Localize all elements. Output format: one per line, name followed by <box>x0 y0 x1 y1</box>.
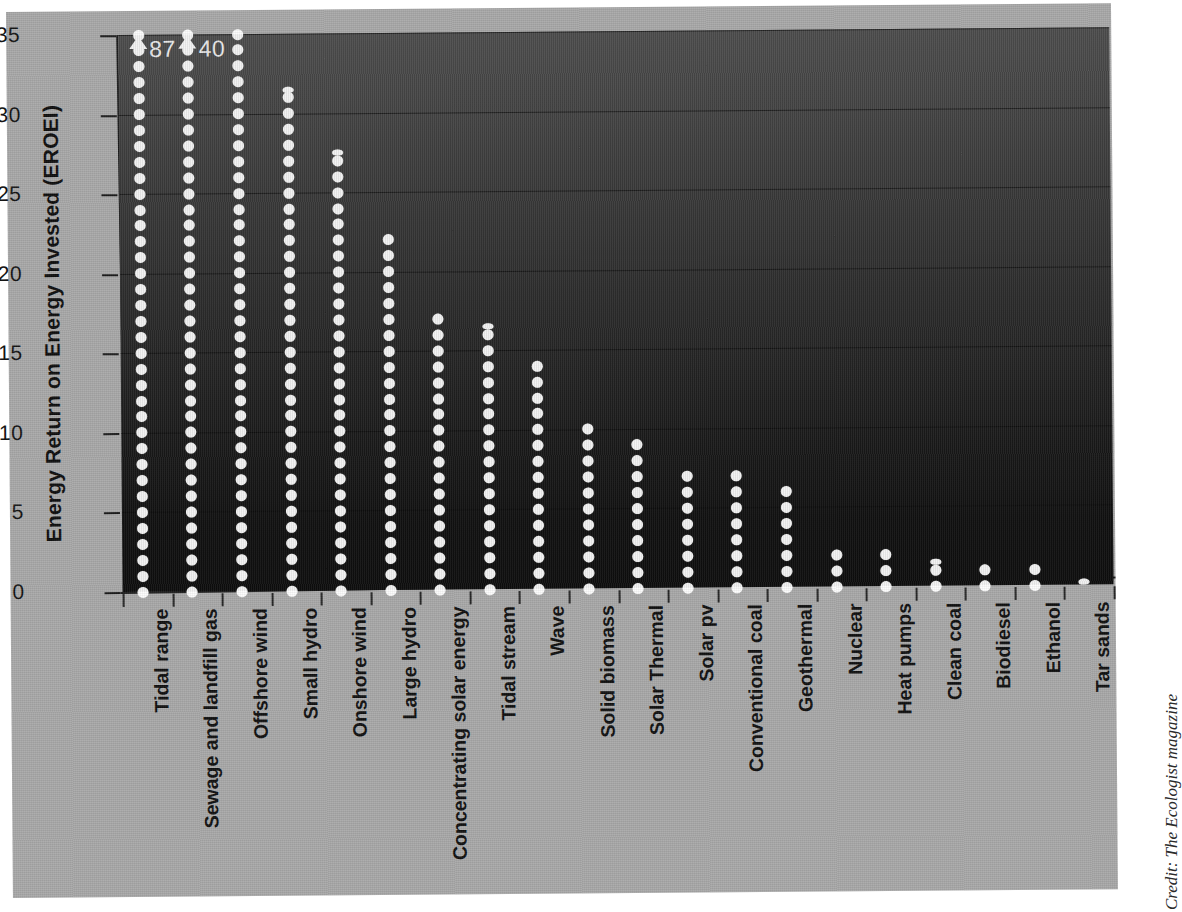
overflow-arrow-icon <box>129 36 147 49</box>
y-tick-0 <box>105 592 121 594</box>
data-dot <box>135 252 146 263</box>
data-dot <box>632 487 643 498</box>
data-dot <box>134 125 145 136</box>
data-dot <box>433 329 444 340</box>
data-dot <box>583 503 594 514</box>
data-dot <box>284 362 295 373</box>
data-dot <box>135 284 146 295</box>
y-tick-25 <box>101 194 117 196</box>
x-tick-12 <box>717 589 719 602</box>
data-dot <box>187 554 198 565</box>
y-tick-label-20: 20 <box>0 262 22 286</box>
data-dot <box>235 347 246 358</box>
data-dot <box>284 299 295 310</box>
data-dot <box>633 567 644 578</box>
data-dot <box>183 125 194 136</box>
data-dot <box>133 61 144 72</box>
data-dot <box>136 411 147 422</box>
data-dot <box>335 569 346 580</box>
data-dot <box>435 584 446 595</box>
x-tick-18 <box>1014 587 1016 600</box>
plot-area: 8740 <box>118 27 1113 592</box>
data-dot <box>1029 579 1040 590</box>
data-dot <box>284 267 295 278</box>
data-dot <box>333 219 344 230</box>
data-dot <box>236 538 247 549</box>
data-dot <box>235 458 246 469</box>
data-dot <box>184 204 195 215</box>
data-dot <box>137 586 148 597</box>
data-dot <box>881 581 892 592</box>
x-axis-label: Solid biomass <box>595 605 619 737</box>
data-dot <box>433 314 444 325</box>
data-dot <box>234 283 245 294</box>
data-dot <box>434 520 445 531</box>
data-dot <box>187 570 198 581</box>
data-dot <box>382 250 393 261</box>
data-dot <box>880 565 891 576</box>
data-dot <box>731 518 742 529</box>
data-dot <box>135 220 146 231</box>
data-dot <box>234 220 245 231</box>
data-dot <box>135 300 146 311</box>
data-dot <box>384 393 395 404</box>
data-dot <box>236 506 247 517</box>
gridline-5 <box>122 505 1113 514</box>
data-dot <box>334 378 345 389</box>
data-dot <box>582 440 593 451</box>
data-dot <box>233 92 244 103</box>
gridlines <box>118 27 1109 35</box>
data-dot <box>283 171 294 182</box>
data-dot <box>383 266 394 277</box>
data-dot <box>532 408 543 419</box>
data-dot <box>534 583 545 594</box>
data-dot <box>682 566 693 577</box>
data-dot <box>335 489 346 500</box>
data-dot <box>183 93 194 104</box>
data-dot <box>134 204 145 215</box>
data-dot <box>285 410 296 421</box>
data-dot <box>335 505 346 516</box>
data-dot <box>135 268 146 279</box>
data-dot <box>235 395 246 406</box>
data-dot <box>632 439 643 450</box>
data-dot <box>283 187 294 198</box>
data-dot <box>582 424 593 435</box>
data-dot <box>233 188 244 199</box>
data-dot <box>283 140 294 151</box>
data-dot <box>236 586 247 597</box>
data-dot <box>333 267 344 278</box>
data-dot <box>184 188 195 199</box>
data-dot <box>233 204 244 215</box>
data-dot <box>133 77 144 88</box>
data-dot <box>284 315 295 326</box>
data-dot <box>434 552 445 563</box>
data-dot <box>233 140 244 151</box>
data-dot <box>286 537 297 548</box>
data-dot <box>235 363 246 374</box>
data-dot <box>682 518 693 529</box>
gridline-30 <box>119 107 1110 116</box>
overflow-value-label: 87 <box>149 36 176 63</box>
data-dot <box>233 108 244 119</box>
data-dot <box>233 172 244 183</box>
data-dot <box>831 581 842 592</box>
x-axis-label: Solar pv <box>695 604 719 681</box>
data-dot <box>632 455 643 466</box>
data-dot <box>135 316 146 327</box>
data-dot <box>632 471 643 482</box>
data-dot <box>282 108 293 119</box>
data-dot <box>484 568 495 579</box>
figure-card: Energy Return on Energy Invested (EROEI)… <box>6 3 1118 898</box>
x-axis-label: Large hydro <box>397 607 421 720</box>
gridline-15 <box>121 346 1112 355</box>
data-dot <box>332 187 343 198</box>
data-dot <box>134 109 145 120</box>
data-dot <box>285 490 296 501</box>
overflow-value-label: 40 <box>199 35 226 62</box>
data-dot <box>185 395 196 406</box>
data-dot <box>285 474 296 485</box>
data-dot <box>682 550 693 561</box>
data-dot <box>334 330 345 341</box>
data-dot <box>335 521 346 532</box>
